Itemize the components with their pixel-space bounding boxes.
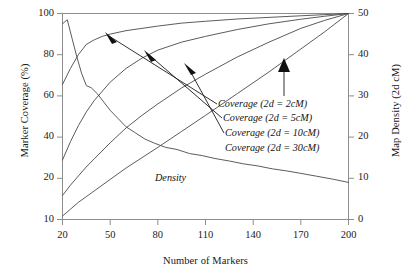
ytick-right-0: 0	[358, 213, 388, 224]
xtick-80: 80	[138, 229, 178, 240]
xtick-200: 200	[329, 229, 369, 240]
xtick-20: 20	[43, 229, 83, 240]
ytick-right-30: 30	[358, 89, 388, 100]
curve-label-density: Density	[155, 172, 186, 183]
curve-label-coverage-10cm: Coverage (2d = 10cM)	[225, 127, 319, 138]
y-axis-left-title: Marker Coverage (%)	[19, 31, 30, 191]
ytick-right-50: 50	[358, 7, 388, 18]
curve-label-coverage-30cm: Coverage (2d = 30cM)	[225, 142, 319, 153]
bottom-axis-ticks	[63, 220, 349, 226]
ytick-left-10: 10	[24, 213, 54, 224]
xtick-140: 140	[233, 229, 273, 240]
xtick-110: 110	[186, 229, 226, 240]
x-axis-title: Number of Markers	[62, 255, 349, 266]
curve-label-coverage-5cm: Coverage (2d = 5cM)	[223, 112, 312, 123]
curve-label-coverage-2cm: Coverage (2d = 2cM)	[218, 98, 307, 109]
right-axis-ticks	[349, 14, 355, 220]
xtick-170: 170	[281, 229, 321, 240]
ytick-left-100: 100	[24, 7, 54, 18]
ytick-right-20: 20	[358, 130, 388, 141]
xtick-50: 50	[90, 229, 130, 240]
ytick-right-40: 40	[358, 48, 388, 59]
ytick-right-10: 10	[358, 171, 388, 182]
left-axis-ticks	[57, 14, 63, 220]
y-axis-right-title: Map Density (2d cM)	[390, 31, 401, 191]
